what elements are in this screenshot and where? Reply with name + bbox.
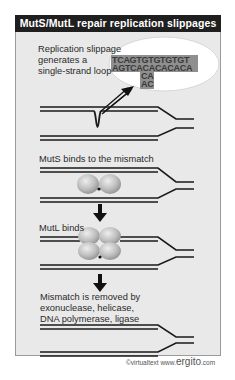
down-arrow-1 (93, 204, 107, 222)
copyright-prefix: ©virtualtext (126, 359, 159, 366)
copyright-notice: ©virtualtext www.ergito.com (126, 356, 215, 367)
site-prefix: www. (160, 359, 176, 366)
callout-pointer-arrow (100, 86, 134, 114)
step-4-line-2: exonuclease, helicase, (40, 303, 140, 314)
step-1-line-1: Replication slippage (38, 44, 121, 55)
dna-fork-stage-1 (40, 107, 194, 140)
step-3-caption: MutL binds (39, 223, 84, 234)
mutl-muts-complex (78, 227, 121, 260)
step-2-caption: MutS binds to the mismatch (39, 154, 154, 165)
step-1-line-2: generates a (38, 55, 121, 66)
single-strand-loop (94, 111, 101, 127)
down-arrow-2 (93, 274, 107, 292)
step-1-line-3: single-strand loop (38, 66, 121, 77)
site-brand: ergito (176, 356, 201, 367)
sequence-loop-2: AC (141, 80, 153, 88)
step-4-line-3: DNA polymerase, ligase (40, 314, 140, 325)
step-1-caption: Replication slippage generates a single-… (38, 44, 121, 77)
step-4-caption: Mismatch is removed by exonuclease, heli… (40, 292, 140, 325)
dna-fork-stage-4 (40, 325, 194, 356)
site-suffix: .com (201, 359, 215, 366)
muts-protein (77, 174, 121, 194)
step-4-line-1: Mismatch is removed by (40, 292, 140, 303)
